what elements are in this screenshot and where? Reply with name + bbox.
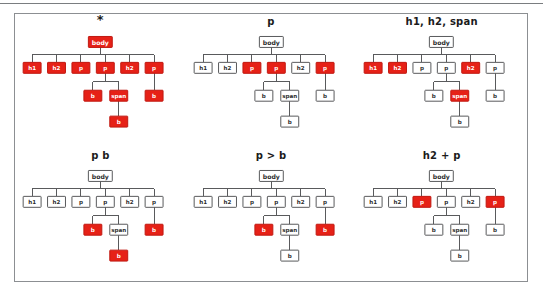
node-label: b: [287, 252, 291, 258]
node-label: h2: [223, 199, 231, 205]
top-divider-rule: [0, 3, 543, 4]
dom-tree-panel-child: bodyh1h2pph2pbspanbb: [186, 164, 357, 282]
node-p: p: [72, 196, 90, 207]
panel-title: *: [15, 14, 186, 26]
node-span: span: [280, 224, 298, 235]
node-p: p: [486, 62, 504, 73]
node-b: b: [425, 90, 443, 101]
node-label: h1: [28, 65, 36, 71]
panel-universal: *bodyh1h2pph2pbspanbb: [15, 14, 186, 148]
tree-area: bodyh1h2pph2pbspanbb: [186, 30, 357, 148]
node-label: p: [445, 199, 449, 206]
node-h2: h2: [291, 62, 309, 73]
tree-area: bodyh1h2pph2pbspanbb: [186, 164, 357, 282]
node-label: b: [117, 252, 121, 258]
tree-area: bodyh1h2pph2pbspanbb: [356, 30, 527, 148]
node-h2: h2: [218, 62, 236, 73]
node-b-highlighted: b: [145, 224, 163, 235]
node-label: h2: [126, 199, 134, 205]
node-label: p: [79, 199, 83, 206]
node-label: b: [493, 227, 497, 233]
node-b-highlighted: b: [316, 224, 334, 235]
node-label: p: [152, 65, 156, 72]
node-label: p: [420, 199, 424, 206]
node-p: p: [96, 196, 114, 207]
node-label: p: [493, 199, 497, 206]
node-h2-highlighted: h2: [462, 62, 480, 73]
node-h1: h1: [194, 62, 212, 73]
node-h2-highlighted: h2: [121, 62, 139, 73]
node-label: p: [103, 65, 107, 72]
node-label: h2: [394, 199, 402, 205]
node-p: p: [145, 196, 163, 207]
node-label: body: [433, 39, 450, 47]
node-b-highlighted: b: [84, 90, 102, 101]
node-b: b: [316, 90, 334, 101]
node-h1: h1: [194, 196, 212, 207]
node-p: p: [243, 196, 261, 207]
node-b: b: [280, 116, 298, 127]
node-label: b: [262, 93, 266, 99]
node-span: span: [110, 224, 128, 235]
node-label: p: [323, 199, 327, 206]
node-p-highlighted: p: [486, 196, 504, 207]
node-p: p: [267, 196, 285, 207]
node-label: h2: [53, 199, 61, 205]
node-label: h2: [467, 65, 475, 71]
node-b-highlighted: b: [110, 250, 128, 261]
node-label: p: [493, 65, 497, 72]
node-label: b: [91, 227, 95, 233]
panel-type-p: pbodyh1h2pph2pbspanbb: [186, 14, 357, 148]
node-p-highlighted: p: [243, 62, 261, 73]
node-body-highlighted: body: [88, 36, 112, 47]
node-label: span: [282, 93, 297, 100]
node-label: h1: [370, 65, 378, 71]
tree-edges: [373, 181, 495, 250]
node-label: b: [458, 119, 462, 125]
node-label: h1: [199, 65, 207, 71]
node-label: h1: [199, 199, 207, 205]
node-p-highlighted: p: [145, 62, 163, 73]
node-p: p: [413, 62, 431, 73]
node-label: b: [493, 93, 497, 99]
node-label: body: [262, 172, 279, 180]
node-b-highlighted: b: [145, 90, 163, 101]
node-span: span: [280, 90, 298, 101]
panel-descendant: p bbodyh1h2pph2pbspanbb: [15, 148, 186, 282]
dom-tree-panel-universal: bodyh1h2pph2pbspanbb: [15, 30, 186, 148]
node-label: p: [250, 199, 254, 206]
node-label: span: [282, 227, 297, 234]
node-label: h2: [394, 65, 402, 71]
node-label: p: [445, 65, 449, 72]
tree-area: bodyh1h2pph2pbspanbb: [15, 30, 186, 148]
node-p-highlighted: p: [316, 62, 334, 73]
node-label: h2: [53, 65, 61, 71]
node-b: b: [255, 90, 273, 101]
node-label: body: [92, 39, 109, 47]
node-h1-highlighted: h1: [23, 62, 41, 73]
tree-edges: [32, 181, 154, 250]
node-label: p: [103, 199, 107, 206]
tree-edges: [203, 181, 325, 250]
panel-group: h1, h2, spanbodyh1h2pph2pbspanbb: [356, 14, 527, 148]
node-p: p: [438, 62, 456, 73]
node-span-highlighted: span: [451, 90, 469, 101]
node-label: b: [458, 252, 462, 258]
node-label: p: [250, 65, 254, 72]
node-body: body: [259, 36, 283, 47]
node-h2: h2: [389, 196, 407, 207]
node-b: b: [486, 224, 504, 235]
node-label: p: [274, 65, 278, 72]
panel-child: p > bbodyh1h2pph2pbspanbb: [186, 148, 357, 282]
node-label: b: [152, 93, 156, 99]
node-label: h1: [28, 199, 36, 205]
node-b: b: [280, 250, 298, 261]
dom-tree-panel-type-p: bodyh1h2pph2pbspanbb: [186, 30, 357, 148]
node-h2: h2: [48, 196, 66, 207]
node-body: body: [430, 170, 454, 181]
node-h1: h1: [364, 196, 382, 207]
dom-tree-panel-group: bodyh1h2pph2pbspanbb: [356, 30, 527, 148]
node-h2-highlighted: h2: [48, 62, 66, 73]
dom-tree-panel-adjacent: bodyh1h2pph2pbspanbb: [356, 164, 527, 282]
node-label: h2: [223, 65, 231, 71]
